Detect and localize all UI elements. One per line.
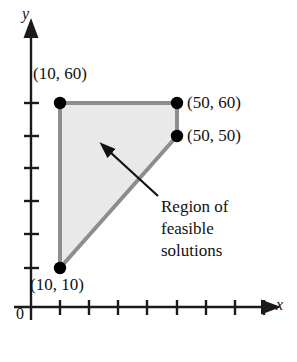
y-axis-label: y [22,6,29,22]
feasible-region-polygon [60,103,177,268]
region-annotation-line-2: feasible [161,218,229,240]
figure-canvas [0,0,297,362]
vertex-dot-50-60 [171,97,183,109]
vertex-dot-10-60 [54,97,66,109]
feasible-region-figure: y x 0 (10, 60) (50, 60) (50, 50) (10, 10… [0,0,297,362]
region-annotation-line-3: solutions [161,240,229,262]
vertex-label-10-10: (10, 10) [30,276,84,293]
vertex-dot-50-50 [171,130,183,142]
vertex-label-10-60: (10, 60) [33,65,87,82]
x-axis-label: x [276,297,283,313]
vertex-label-50-60: (50, 60) [187,94,241,111]
region-annotation: Region of feasible solutions [161,196,229,262]
vertex-label-50-50: (50, 50) [187,127,241,144]
region-annotation-line-1: Region of [161,196,229,218]
vertex-dot-10-10 [54,262,66,274]
origin-label: 0 [16,306,24,322]
